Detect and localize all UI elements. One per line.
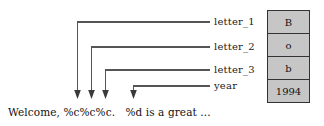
arrowhead-letter-2 bbox=[88, 90, 95, 99]
value-cell-letter-3: b bbox=[268, 57, 309, 80]
format-string-line: Welcome, %c%c%c. %d is a great ... bbox=[8, 106, 211, 118]
arrowheads bbox=[74, 90, 137, 99]
arrowhead-year bbox=[130, 90, 137, 99]
connector-year bbox=[134, 86, 211, 90]
variable-label-letter-2: letter_2 bbox=[214, 41, 255, 52]
connector-letter-3 bbox=[106, 70, 211, 90]
connector-letter-2 bbox=[92, 47, 211, 90]
connector-letter-1 bbox=[78, 22, 211, 90]
arrowhead-letter-1 bbox=[74, 90, 81, 99]
value-cell-year: 1994 bbox=[268, 80, 309, 102]
arrowhead-letter-3 bbox=[102, 90, 109, 99]
variable-label-letter-3: letter_3 bbox=[214, 64, 255, 75]
variable-value-table: B o b 1994 bbox=[267, 10, 310, 103]
diagram-canvas: letter_1 letter_2 letter_3 year B o b 19… bbox=[0, 0, 324, 126]
variable-label-letter-1: letter_1 bbox=[214, 16, 255, 27]
value-cell-letter-2: o bbox=[268, 34, 309, 57]
value-cell-letter-1: B bbox=[268, 11, 309, 34]
variable-label-year: year bbox=[214, 80, 237, 91]
